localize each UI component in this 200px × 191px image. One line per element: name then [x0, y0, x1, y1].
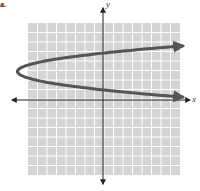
grid — [28, 23, 180, 175]
y-axis-label: y — [106, 0, 110, 9]
x-axis-label: x — [192, 94, 196, 104]
coordinate-plane — [0, 0, 200, 191]
